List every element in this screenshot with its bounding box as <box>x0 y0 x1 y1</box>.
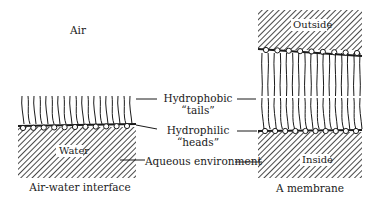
outside-label: Outside <box>293 20 332 30</box>
inside-label: Inside <box>302 155 333 165</box>
water-label: Water <box>59 146 89 156</box>
hydrophilic-label: Hydrophilic <box>158 125 238 136</box>
membrane-caption: A membrane <box>255 183 365 194</box>
air-label: Air <box>70 25 86 36</box>
heads-label: “heads” <box>158 137 238 148</box>
left-monolayer <box>18 96 136 131</box>
aqueous-environment-label: Aqueous environment <box>145 156 235 167</box>
hydrophobic-label: Hydrophobic <box>158 93 238 104</box>
bilayer <box>258 47 362 133</box>
outside-region <box>258 10 362 50</box>
tails-label: “tails” <box>158 105 238 116</box>
air-water-interface-caption: Air-water interface <box>20 182 140 193</box>
